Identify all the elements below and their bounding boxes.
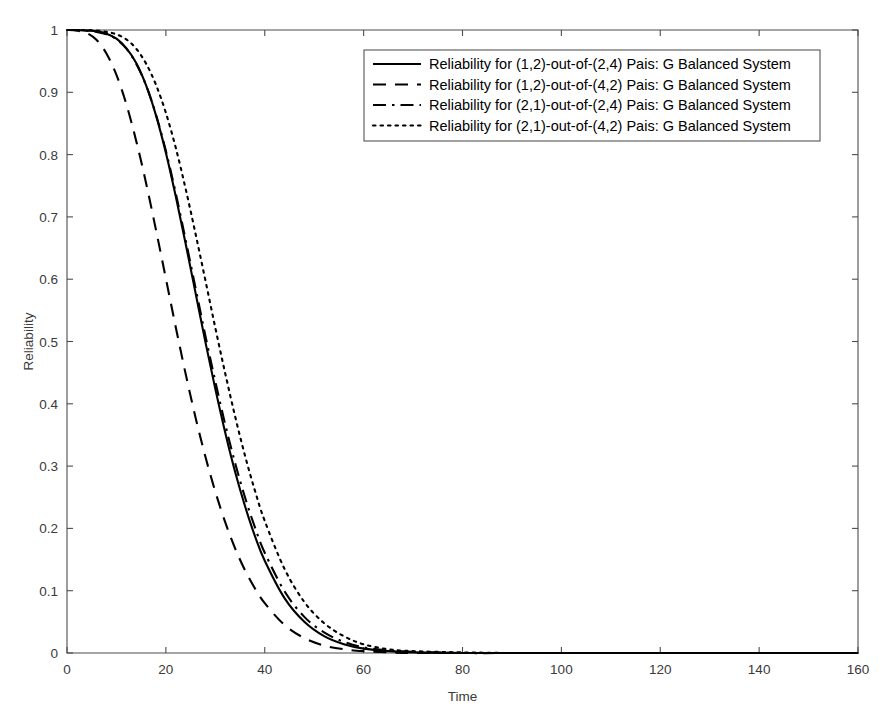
x-tick-label: 160 <box>847 662 870 677</box>
legend-item[interactable]: Reliability for (1,2)-out-of-(4,2) Pais:… <box>373 77 791 93</box>
y-tick-label: 0.4 <box>39 397 58 412</box>
x-tick-label: 0 <box>63 662 71 677</box>
y-tick-label: 0.9 <box>39 85 58 100</box>
chart-legend: Reliability for (1,2)-out-of-(2,4) Pais:… <box>364 50 820 141</box>
x-axis-title: Time <box>448 689 478 704</box>
legend-item[interactable]: Reliability for (2,1)-out-of-(2,4) Pais:… <box>373 97 791 113</box>
legend-item[interactable]: Reliability for (2,1)-out-of-(4,2) Pais:… <box>373 118 791 134</box>
legend-label: Reliability for (1,2)-out-of-(4,2) Pais:… <box>429 77 791 93</box>
y-tick-label: 0.7 <box>39 210 58 225</box>
y-tick-label: 0.6 <box>39 272 58 287</box>
y-axis-title: Reliability <box>21 312 36 370</box>
x-tick-label: 120 <box>649 662 672 677</box>
y-tick-label: 0 <box>50 646 58 661</box>
plot-canvas: 02040608010012014016000.10.20.30.40.50.6… <box>0 0 887 718</box>
x-tick-label: 40 <box>257 662 272 677</box>
y-tick-label: 0.8 <box>39 148 58 163</box>
x-tick-label: 20 <box>158 662 173 677</box>
y-tick-label: 0.3 <box>39 459 58 474</box>
x-tick-label: 80 <box>455 662 470 677</box>
legend-label: Reliability for (2,1)-out-of-(4,2) Pais:… <box>429 118 791 134</box>
legend-label: Reliability for (2,1)-out-of-(2,4) Pais:… <box>429 97 791 113</box>
y-tick-label: 0.5 <box>39 335 58 350</box>
x-tick-label: 100 <box>550 662 573 677</box>
reliability-chart-figure: 02040608010012014016000.10.20.30.40.50.6… <box>0 0 887 718</box>
x-tick-label: 60 <box>356 662 371 677</box>
legend-item[interactable]: Reliability for (1,2)-out-of-(2,4) Pais:… <box>373 56 791 72</box>
y-tick-label: 0.2 <box>39 521 58 536</box>
legend-label: Reliability for (1,2)-out-of-(2,4) Pais:… <box>429 56 791 72</box>
y-tick-label: 1 <box>50 23 58 38</box>
x-tick-label: 140 <box>748 662 771 677</box>
y-tick-label: 0.1 <box>39 584 58 599</box>
